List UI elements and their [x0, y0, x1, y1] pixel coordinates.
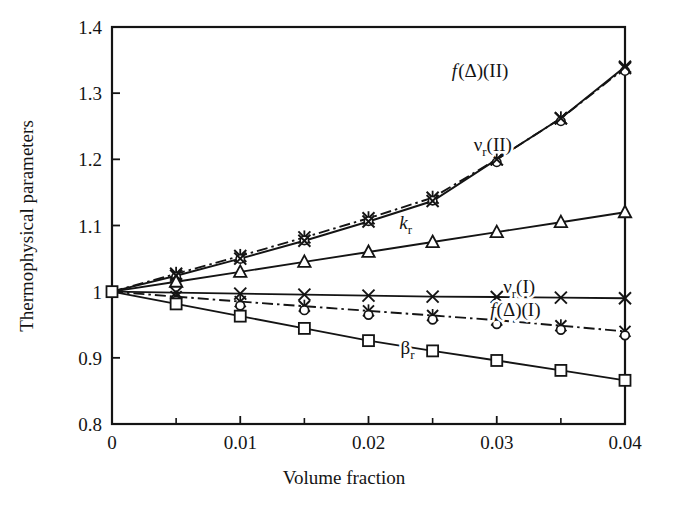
data-marker: [491, 355, 502, 366]
data-marker: [555, 319, 566, 334]
x-tick-label: 0.04: [608, 432, 642, 453]
data-marker: [107, 286, 118, 297]
chart-background: [0, 0, 688, 506]
data-marker: [235, 295, 246, 310]
y-tick-label: 1.3: [78, 83, 102, 104]
data-marker: [620, 325, 631, 340]
y-tick-label: 1: [93, 282, 103, 303]
data-marker: [299, 300, 310, 315]
y-tick-label: 1.2: [78, 149, 102, 170]
data-marker: [171, 298, 182, 309]
x-tick-label: 0: [107, 432, 117, 453]
x-tick-label: 0.03: [480, 432, 513, 453]
x-axis-title: Volume fraction: [283, 467, 406, 488]
svg-text:f(Δ)(I): f(Δ)(I): [490, 299, 540, 321]
x-tick-label: 0.02: [352, 432, 385, 453]
chart-canvas: 00.010.020.030.04 0.80.911.11.21.31.4 f(…: [0, 0, 688, 506]
data-marker: [363, 335, 374, 346]
y-tick-label: 1.4: [78, 17, 102, 38]
y-tick-label: 0.9: [78, 348, 102, 369]
data-marker: [427, 345, 438, 356]
x-tick-label: 0.01: [224, 432, 257, 453]
y-tick-label: 0.8: [78, 414, 102, 435]
data-marker: [235, 311, 246, 322]
data-marker: [427, 309, 438, 324]
y-tick-label: 1.1: [78, 216, 102, 237]
annotation-f-delta-II: f(Δ)(II)f(Δ)(II): [452, 60, 508, 82]
annotation-f-delta-I: f(Δ)(I)f(Δ)(I): [490, 299, 540, 321]
svg-text:f(Δ)(II): f(Δ)(II): [452, 60, 508, 82]
data-marker: [620, 375, 631, 386]
y-axis-title: Thermophysical parameters: [16, 120, 37, 332]
data-marker: [299, 323, 310, 334]
data-marker: [555, 365, 566, 376]
thermophysical-parameters-chart: 00.010.020.030.04 0.80.911.11.21.31.4 f(…: [0, 0, 688, 506]
data-marker: [363, 304, 374, 319]
